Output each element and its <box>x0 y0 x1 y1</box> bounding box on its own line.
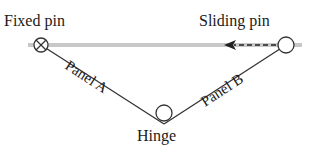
hinge-label: Hinge <box>137 127 176 145</box>
sliding-pin-icon <box>278 37 294 53</box>
fixed-pin-icon <box>34 38 48 52</box>
panel-b-label: Panel B <box>198 70 246 109</box>
mechanism-diagram: Fixed pin Sliding pin Hinge Panel A Pane… <box>0 0 314 158</box>
panel-a-label: Panel A <box>62 57 110 96</box>
fixed-pin-label: Fixed pin <box>4 12 65 30</box>
hinge-icon <box>156 105 172 121</box>
sliding-pin-label: Sliding pin <box>199 12 270 30</box>
